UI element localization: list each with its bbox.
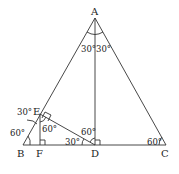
- angle-label-e-top: 30°: [17, 107, 32, 117]
- right-angle-d: [95, 140, 100, 145]
- angle-label-d-left: 30°: [65, 137, 80, 147]
- angle-label-d-top: 60°: [81, 127, 96, 137]
- angle-label-c: 60°: [147, 137, 162, 147]
- label-f: F: [36, 148, 43, 159]
- label-b: B: [17, 148, 24, 159]
- label-e: E: [33, 106, 40, 117]
- angle-label-e-f: 60°: [42, 124, 57, 134]
- label-a: A: [90, 6, 99, 17]
- angle-arc-e-lower: [40, 117, 46, 122]
- angle-arc-b: [28, 136, 30, 145]
- angle-arc-d-left: [82, 139, 84, 145]
- angle-arc-d-top: [90, 138, 95, 142]
- right-angle-f: [40, 140, 45, 145]
- label-d: D: [91, 148, 99, 159]
- angle-label-b: 60°: [10, 128, 25, 138]
- segment-ac: [95, 18, 166, 145]
- angle-label-a-right: 30°: [96, 44, 111, 54]
- label-c: C: [161, 148, 169, 159]
- angle-label-a-left: 30°: [81, 44, 96, 54]
- segment-ab: [23, 18, 95, 145]
- geometry-diagram: A B C D E F 30° 30° 30° 60° 60° 60° 30° …: [0, 0, 179, 174]
